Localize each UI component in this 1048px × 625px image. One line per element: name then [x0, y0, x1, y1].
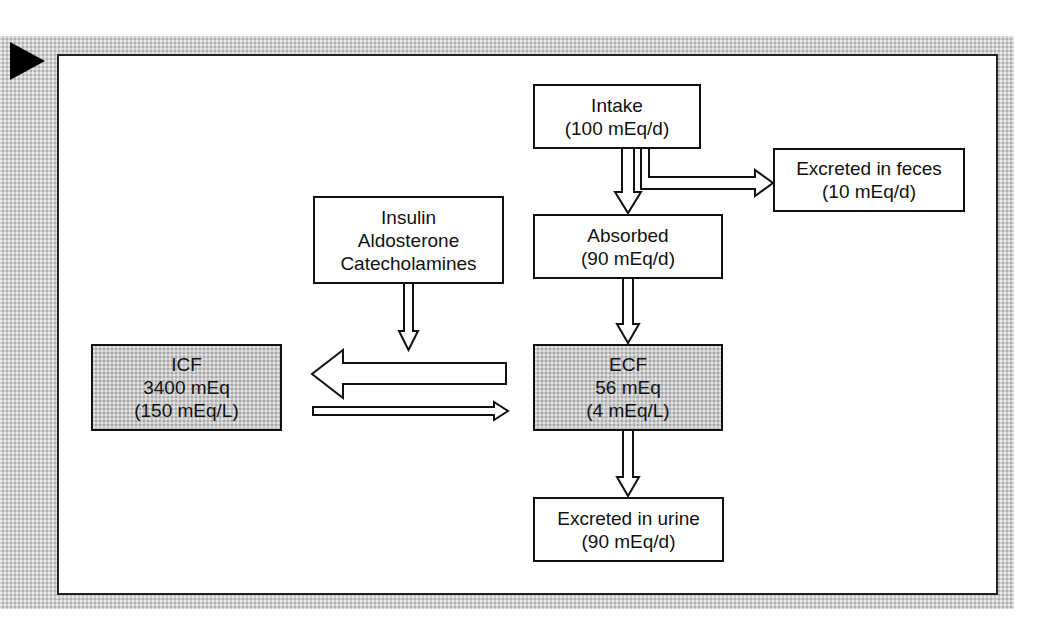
node-feces-line2: (10 mEq/d)	[822, 180, 916, 203]
node-icf-line3: (150 mEq/L)	[134, 399, 239, 422]
node-ecf-line1: ECF	[609, 353, 647, 376]
node-intake-line2: (100 mEq/d)	[565, 117, 670, 140]
node-icf-line2: 3400 mEq	[143, 376, 230, 399]
node-absorbed-line2: (90 mEq/d)	[581, 247, 675, 270]
node-intake-line1: Intake	[591, 94, 643, 117]
node-feces-line1: Excreted in feces	[796, 157, 942, 180]
node-ecf-line2: 56 mEq	[595, 376, 660, 399]
node-hormones-line3: Catecholamines	[340, 252, 476, 275]
node-ecf: ECF 56 mEq (4 mEq/L)	[533, 344, 723, 431]
node-hormones-line1: Insulin	[381, 206, 436, 229]
node-hormones: Insulin Aldosterone Catecholamines	[313, 196, 504, 284]
node-icf-line1: ICF	[171, 353, 202, 376]
node-urine-line2: (90 mEq/d)	[582, 530, 676, 553]
diagram-panel	[57, 54, 998, 595]
node-urine: Excreted in urine (90 mEq/d)	[533, 497, 724, 562]
node-hormones-line2: Aldosterone	[358, 229, 459, 252]
play-triangle-icon	[10, 42, 45, 80]
node-feces: Excreted in feces (10 mEq/d)	[773, 148, 965, 212]
node-icf: ICF 3400 mEq (150 mEq/L)	[91, 344, 282, 431]
node-urine-line1: Excreted in urine	[557, 507, 700, 530]
node-absorbed-line1: Absorbed	[587, 224, 668, 247]
node-ecf-line3: (4 mEq/L)	[586, 399, 669, 422]
node-intake: Intake (100 mEq/d)	[533, 84, 701, 149]
node-absorbed: Absorbed (90 mEq/d)	[533, 214, 723, 279]
